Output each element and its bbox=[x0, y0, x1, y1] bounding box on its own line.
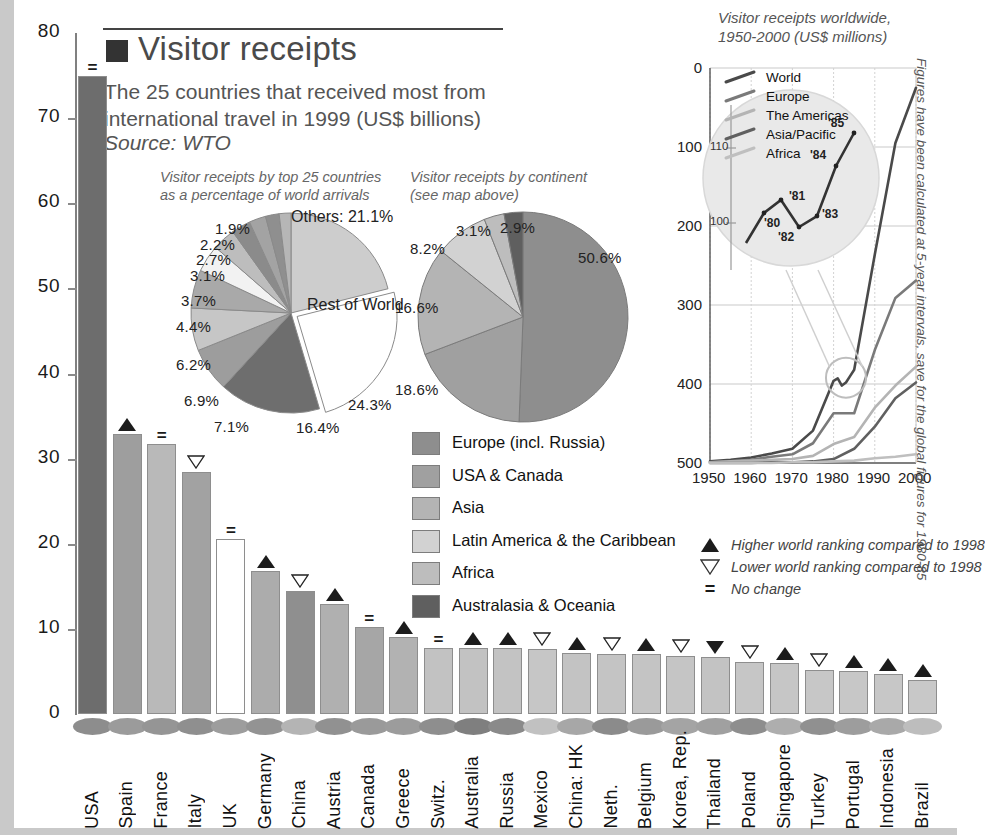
right-pie-caption-line2: (see map above) bbox=[410, 187, 519, 203]
bar-spain[interactable] bbox=[113, 434, 142, 714]
country-label-turkey[interactable]: Turkey bbox=[808, 773, 829, 829]
country-label-belgium[interactable]: Belgium bbox=[635, 762, 656, 829]
legend-label: Africa bbox=[452, 563, 494, 582]
country-label-spain[interactable]: Spain bbox=[116, 781, 137, 829]
bar-canada[interactable] bbox=[355, 627, 384, 714]
legend-label: Australasia & Oceania bbox=[452, 596, 615, 615]
line-series-asia-pacific[interactable] bbox=[710, 382, 916, 463]
bar-belgium[interactable] bbox=[632, 654, 661, 714]
line-legend-label-europe[interactable]: Europe bbox=[766, 89, 810, 104]
country-label-china-hk[interactable]: China: HK bbox=[566, 744, 587, 829]
country-label-korea-rep[interactable]: Korea, Rep. bbox=[670, 730, 691, 829]
country-label-neth[interactable]: Neth. bbox=[601, 784, 622, 829]
rank-up-icon bbox=[463, 631, 483, 645]
country-dot-marker bbox=[869, 718, 908, 735]
right-pie-pct-2.9: 2.9% bbox=[500, 219, 535, 236]
country-label-italy[interactable]: Italy bbox=[185, 794, 206, 829]
bar-turkey[interactable] bbox=[805, 670, 834, 714]
line-series-europe[interactable] bbox=[710, 281, 916, 463]
magnifier-data-point bbox=[797, 225, 802, 230]
y-tick-label-20: 20 bbox=[26, 531, 60, 553]
country-label-russia[interactable]: Russia bbox=[497, 772, 518, 829]
rank-down-icon bbox=[697, 558, 723, 576]
y-tick-20 bbox=[68, 544, 77, 546]
bar-usa[interactable] bbox=[78, 76, 107, 714]
bar-switz[interactable] bbox=[424, 648, 453, 714]
bar-indonesia[interactable] bbox=[874, 674, 903, 714]
bar-neth[interactable] bbox=[597, 654, 626, 714]
bar-italy[interactable] bbox=[182, 472, 211, 714]
line-chart-y-tick-400: 400 bbox=[672, 375, 702, 392]
country-label-france[interactable]: France bbox=[151, 771, 172, 829]
country-dot-marker bbox=[765, 718, 804, 735]
magnifier-point-label-81: '81 bbox=[789, 189, 805, 203]
line-chart-y-tick-100: 100 bbox=[672, 138, 702, 155]
magnifier-connector bbox=[818, 270, 862, 367]
bar-china-hk[interactable] bbox=[562, 653, 591, 714]
country-label-portugal[interactable]: Portugal bbox=[843, 760, 864, 829]
legend-swatch bbox=[412, 432, 440, 455]
bar-mexico[interactable] bbox=[528, 649, 557, 714]
bar-australia[interactable] bbox=[459, 648, 488, 714]
bar-austria[interactable] bbox=[320, 604, 349, 714]
bar-poland[interactable] bbox=[735, 662, 764, 714]
bar-portugal[interactable] bbox=[839, 671, 868, 714]
legend-swatch bbox=[412, 497, 440, 520]
rank-down-icon bbox=[809, 653, 829, 667]
bar-greece[interactable] bbox=[389, 637, 418, 714]
y-tick-30 bbox=[68, 459, 77, 461]
bar-singapore[interactable] bbox=[770, 663, 799, 714]
country-label-thailand[interactable]: Thailand bbox=[704, 758, 725, 829]
rank-up-icon bbox=[256, 554, 276, 568]
y-tick-10 bbox=[68, 629, 77, 631]
country-dot-marker bbox=[627, 718, 666, 735]
bar-brazil[interactable] bbox=[908, 680, 937, 714]
country-label-indonesia[interactable]: Indonesia bbox=[877, 748, 898, 829]
country-label-uk[interactable]: UK bbox=[220, 803, 241, 829]
rank-up-icon bbox=[394, 620, 414, 634]
country-label-china[interactable]: China bbox=[289, 780, 310, 829]
country-label-singapore[interactable]: Singapore bbox=[774, 744, 795, 829]
bar-korea-rep[interactable] bbox=[666, 656, 695, 714]
country-label-germany[interactable]: Germany bbox=[255, 753, 276, 829]
right-pie-pct-16.6: 16.6% bbox=[395, 299, 439, 316]
bar-uk[interactable] bbox=[216, 539, 245, 714]
country-label-poland[interactable]: Poland bbox=[739, 771, 760, 829]
bar-russia[interactable] bbox=[493, 648, 522, 714]
country-label-usa[interactable]: USA bbox=[82, 791, 103, 829]
country-dot-marker bbox=[108, 718, 147, 735]
country-label-mexico[interactable]: Mexico bbox=[531, 770, 552, 829]
y-tick-40 bbox=[68, 374, 77, 376]
country-label-austria[interactable]: Austria bbox=[324, 771, 345, 829]
legend-label: Latin America & the Caribbean bbox=[452, 531, 676, 550]
rank-down-icon bbox=[290, 574, 310, 588]
magnifier-data-point bbox=[852, 131, 857, 136]
legend-label: USA & Canada bbox=[452, 466, 563, 485]
rank-down-icon bbox=[602, 637, 622, 651]
y-tick-label-70: 70 bbox=[26, 105, 60, 127]
legend-swatch bbox=[412, 595, 440, 618]
rank-up-icon bbox=[498, 631, 518, 645]
country-dot-marker bbox=[834, 718, 873, 735]
line-legend-label-asia-pacific[interactable]: Asia/Pacific bbox=[766, 127, 836, 142]
bar-china[interactable] bbox=[286, 591, 315, 714]
country-label-australia[interactable]: Australia bbox=[462, 756, 483, 829]
country-dot-marker bbox=[800, 718, 839, 735]
country-dot-marker bbox=[696, 718, 735, 735]
line-legend-label-world[interactable]: World bbox=[766, 70, 801, 85]
country-label-brazil[interactable]: Brazil bbox=[912, 782, 933, 829]
magnifier-point-label-80: '80 bbox=[764, 216, 780, 230]
line-legend-label-africa[interactable]: Africa bbox=[766, 146, 801, 161]
bar-thailand[interactable] bbox=[701, 657, 730, 714]
y-tick-label-80: 80 bbox=[26, 20, 60, 42]
bar-france[interactable] bbox=[147, 444, 176, 714]
line-chart-y-tick-0: 0 bbox=[672, 59, 702, 76]
country-label-greece[interactable]: Greece bbox=[393, 768, 414, 829]
pie-slice[interactable] bbox=[519, 212, 628, 422]
country-label-switz[interactable]: Switz. bbox=[428, 779, 449, 829]
country-dot-marker bbox=[557, 718, 596, 735]
bar-germany[interactable] bbox=[251, 571, 280, 714]
right-pie-pct-18.6: 18.6% bbox=[395, 381, 439, 398]
legend-swatch bbox=[412, 465, 440, 488]
country-label-canada[interactable]: Canada bbox=[358, 764, 379, 829]
